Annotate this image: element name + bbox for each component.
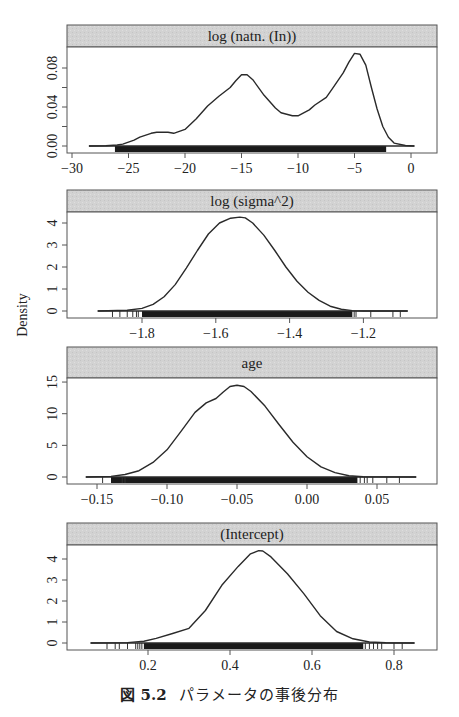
x-tick-label: 0.05 — [365, 492, 390, 507]
y-tick-label: 4 — [45, 220, 60, 227]
panel-title: log (natn. (In)) — [208, 28, 297, 45]
y-tick-label: 5 — [45, 442, 60, 449]
x-tick-label: −30 — [61, 161, 83, 176]
y-tick-label: 0.04 — [45, 95, 60, 120]
y-tick-label: 2 — [45, 264, 60, 271]
x-tick-label: 0.6 — [303, 658, 321, 673]
x-tick-label: −1.4 — [277, 326, 302, 341]
plot-area — [67, 545, 437, 650]
caption-number: 図 5.2 — [120, 686, 166, 704]
y-tick-label: 1 — [45, 619, 60, 626]
x-tick-label: 0.2 — [139, 658, 157, 673]
panel-title: (Intercept) — [220, 526, 283, 543]
caption-text: パラメータの事後分布 — [179, 686, 339, 704]
x-tick-label: 0.00 — [295, 492, 320, 507]
plot-area — [67, 212, 437, 318]
y-tick-label: 15 — [45, 375, 60, 389]
x-tick-label: −20 — [174, 161, 196, 176]
x-tick-label: −10 — [287, 161, 309, 176]
density-panel: age−0.15−0.10−0.050.000.05051015 — [45, 347, 437, 507]
y-tick-label: 4 — [45, 556, 60, 563]
x-tick-label: −1.6 — [203, 326, 228, 341]
rug-marks — [142, 311, 352, 317]
x-tick-label: −0.15 — [81, 492, 113, 507]
y-tick-label: 3 — [45, 577, 60, 584]
density-panel: log (sigma^2)−1.8−1.6−1.4−1.201234 — [45, 190, 437, 341]
x-tick-label: −5 — [347, 161, 362, 176]
posterior-density-figure: log (natn. (In))−30−25−20−15−10−500.000.… — [0, 0, 459, 717]
panel-title: age — [242, 355, 263, 371]
rug-marks — [111, 477, 357, 483]
y-tick-label: 10 — [45, 407, 60, 421]
rug-marks — [144, 643, 363, 649]
y-tick-label: 3 — [45, 242, 60, 249]
y-tick-label: 0.08 — [45, 56, 60, 81]
x-tick-label: −0.05 — [221, 492, 253, 507]
y-tick-label: 0 — [45, 474, 60, 481]
x-tick-label: −1.2 — [351, 326, 376, 341]
y-tick-label: 0 — [45, 640, 60, 647]
x-tick-label: 0.4 — [221, 658, 239, 673]
plot-area — [67, 378, 437, 484]
density-panel: (Intercept)0.20.40.60.801234 — [45, 523, 437, 673]
x-tick-label: −15 — [231, 161, 253, 176]
x-tick-label: 0.8 — [385, 658, 403, 673]
y-tick-label: 0 — [45, 308, 60, 315]
x-tick-label: −1.8 — [129, 326, 154, 341]
rug-marks — [115, 146, 386, 152]
y-tick-label: 1 — [45, 286, 60, 293]
plot-area — [67, 47, 437, 153]
x-tick-label: −25 — [118, 161, 140, 176]
density-panel: log (natn. (In))−30−25−20−15−10−500.000.… — [45, 25, 437, 176]
panel-title: log (sigma^2) — [210, 193, 293, 210]
x-tick-label: −0.10 — [151, 492, 183, 507]
y-tick-label: 2 — [45, 598, 60, 605]
x-tick-label: 0 — [408, 161, 415, 176]
y-tick-label: 0.00 — [45, 134, 60, 159]
figure-caption: 図 5.2パラメータの事後分布 — [0, 683, 459, 704]
y-axis-label: Density — [15, 293, 30, 337]
